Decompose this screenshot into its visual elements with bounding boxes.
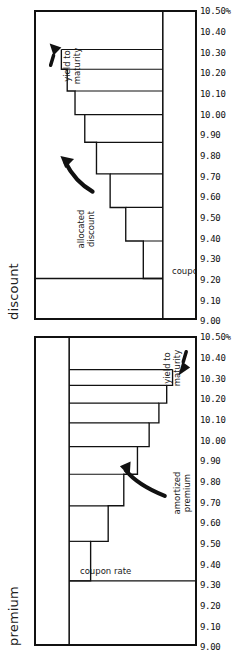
axis-tick-label: 9.40 (200, 560, 220, 570)
axis-tick-label: 10.10 (200, 415, 226, 425)
discount-allocated-discount-label: allocated discount (76, 196, 96, 262)
axis-tick-label: 10.40 (200, 27, 226, 37)
axis-tick-label: 9.70 (200, 498, 220, 508)
axis-tick-label: 9.80 (200, 151, 220, 161)
panel-title-premium: premium (6, 586, 21, 646)
plot-area-premium: coupon rate amortized premium yield to m… (34, 336, 197, 646)
axis-tick-label: 10.40 (200, 353, 226, 363)
axis-tick-label: 9.30 (200, 581, 220, 591)
plot-area-discount: yield to maturity allocated discount cou… (34, 10, 197, 320)
axis-tick-label: 10.00 (200, 436, 226, 446)
axis-tick-label: 10.20 (200, 69, 226, 79)
premium-ytm-step-line (69, 370, 172, 581)
discount-coupon-rate-label: coupon rate (172, 266, 197, 276)
panel-premium: premium (0, 332, 246, 648)
premium-axis-ticks: 10.50%10.4010.3010.2010.1010.009.909.809… (199, 336, 245, 646)
axis-tick-label: 9.90 (200, 457, 220, 467)
discount-ytm-arrow-shaft (51, 55, 54, 65)
axis-tick-label: 9.60 (200, 519, 220, 529)
panel-title-discount: discount (6, 263, 21, 320)
axis-tick-label: 9.30 (200, 255, 220, 265)
axis-tick-label: 10.30 (200, 48, 226, 58)
bond-amortization-figure: premium (0, 0, 246, 652)
figure-canvas: premium (0, 0, 246, 652)
axis-tick-label: 9.40 (200, 234, 220, 244)
axis-tick-label: 10.50% (200, 7, 231, 17)
axis-tick-label: 10.20 (200, 395, 226, 405)
premium-amortized-arrow-shaft (126, 470, 165, 496)
premium-ytm-label: yield to maturity (162, 342, 182, 394)
axis-tick-label: 10.10 (200, 89, 226, 99)
axis-tick-label: 9.80 (200, 477, 220, 487)
axis-tick-label: 9.50 (200, 539, 220, 549)
axis-tick-label: 9.10 (200, 296, 220, 306)
axis-tick-label: 10.30 (200, 374, 226, 384)
discount-axis-ticks: 10.50%10.4010.3010.2010.1010.009.909.809… (199, 10, 245, 320)
axis-tick-label: 9.00 (200, 317, 220, 327)
axis-tick-label: 9.50 (200, 213, 220, 223)
premium-amortized-premium-label: amortized premium (172, 462, 192, 524)
axis-tick-label: 9.90 (200, 131, 220, 141)
axis-tick-label: 10.00 (200, 110, 226, 120)
axis-tick-label: 10.50% (200, 333, 231, 343)
panel-discount: discount (0, 6, 246, 322)
premium-ytm-arrow-shaft (183, 352, 186, 362)
discount-allocated-arrow-shaft (65, 162, 92, 192)
discount-ytm-label: yield to maturity (62, 40, 82, 92)
premium-coupon-rate-label: coupon rate (80, 566, 131, 576)
axis-tick-label: 9.20 (200, 601, 220, 611)
axis-tick-label: 9.10 (200, 622, 220, 632)
discount-ytm-arrow-head (50, 44, 62, 56)
axis-tick-label: 9.70 (200, 172, 220, 182)
axis-tick-label: 9.60 (200, 193, 220, 203)
axis-tick-label: 9.00 (200, 643, 220, 652)
axis-tick-label: 9.20 (200, 275, 220, 285)
